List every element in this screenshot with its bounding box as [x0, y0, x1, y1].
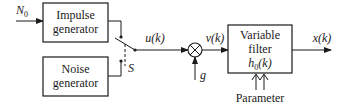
svg-text:Impulse: Impulse: [56, 8, 95, 22]
svg-text:generator: generator: [53, 22, 98, 36]
noise-generator-block: Noise generator: [43, 57, 108, 96]
switch-label: S: [128, 61, 134, 75]
parameter-label: Parameter: [236, 91, 285, 105]
gain-label: g: [200, 68, 206, 82]
svg-text:generator: generator: [53, 76, 98, 90]
impulse-generator-block: Impulse generator: [43, 3, 108, 42]
input-label-n0: N0: [15, 3, 28, 19]
switch-contact-noise: [119, 59, 122, 62]
impulse-output-line: [108, 21, 121, 36]
svg-text:Noise: Noise: [62, 62, 90, 76]
x-signal-label: x(k): [312, 31, 332, 45]
v-signal-label: v(k): [206, 31, 225, 45]
variable-filter-block: Variable filter h0(k): [228, 25, 292, 73]
multiplier-icon: [188, 43, 202, 57]
switch-contact-impulse: [119, 35, 122, 38]
svg-text:h0(k): h0(k): [248, 56, 271, 72]
svg-text:filter: filter: [248, 42, 271, 56]
u-signal-label: u(k): [145, 31, 164, 45]
noise-output-line: [108, 62, 121, 76]
source-filter-model-diagram: N0 Impulse generator Noise generator S u…: [0, 0, 348, 107]
svg-text:Variable: Variable: [240, 28, 280, 42]
